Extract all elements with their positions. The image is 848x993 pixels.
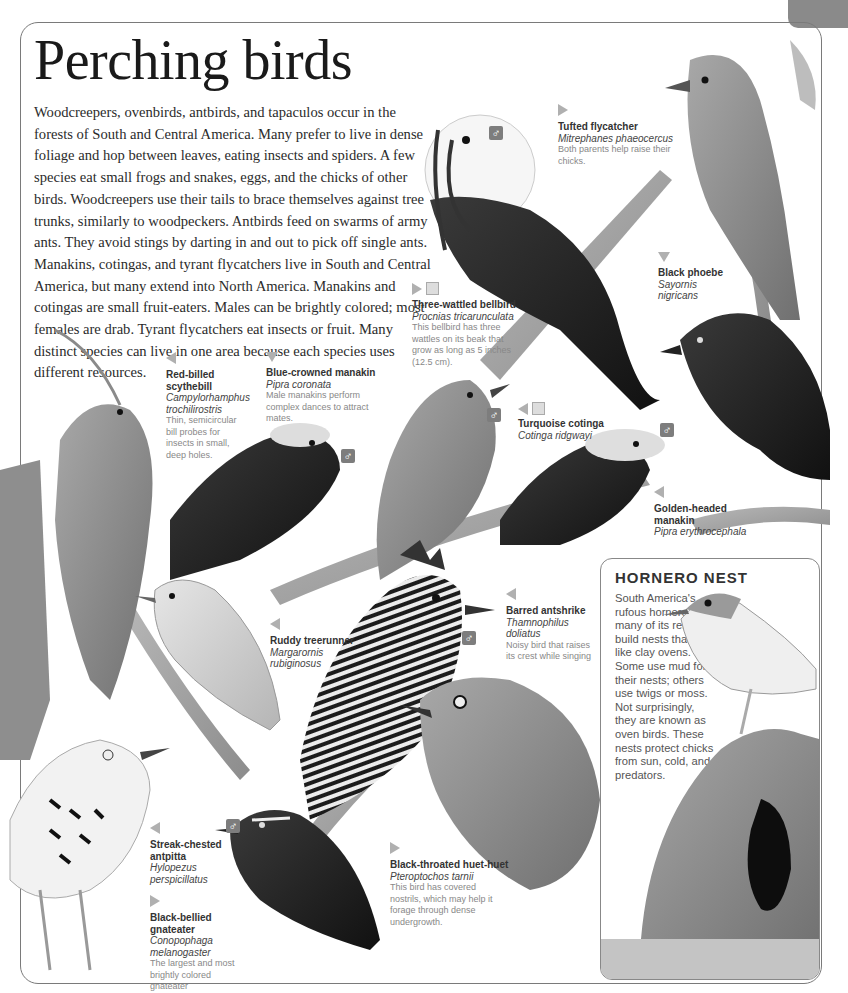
pointer-left-icon [654,486,664,498]
caption-red-billed-scythebill: Red-billed scythebill Campylorhamphus tr… [166,352,246,461]
caption-golden-headed-manakin: Golden-headed manakin Pipra erythrocepha… [654,486,754,538]
male-symbol-icon: ♂ [660,423,674,437]
pointer-left-icon [166,352,176,364]
caption-black-bellied-gnateater: Black-bellied gnateater Conopophaga mela… [150,895,240,993]
hornero-nest-illustration [601,559,819,979]
caption-tufted-flycatcher: Tufted flycatcher Mitrephanes phaeocercu… [558,104,678,167]
pointer-right-icon [150,895,160,907]
caption-turquoise-cotinga: Turquoise cotinga Cotinga ridgwayi [518,402,618,441]
caption-ruddy-treerunner: Ruddy treerunner Margarornis rubiginosus [270,618,360,670]
golden-headed-manakin-bird-icon [500,429,665,545]
pointer-down-icon [266,352,278,362]
caption-black-phoebe: Black phoebe Sayornis nigricans [658,252,728,302]
male-symbol-icon: ♂ [341,449,355,463]
hornero-bird-icon [663,593,816,734]
scythebill-bird-icon [55,330,153,700]
antpitta-bird-icon [10,740,170,970]
caption-three-wattled-bellbird: Three-wattled bellbird Procnias tricarun… [412,282,522,368]
caption-streak-chested-antpitta: Streak-chested antpitta Hylopezus perspi… [150,822,230,885]
hornero-nest-panel: HORNERO NEST South America's rufous horn… [600,558,820,980]
pointer-right-icon [412,283,422,295]
size-comparison-icon [426,282,439,295]
pointer-left-icon [506,588,516,600]
male-symbol-icon: ♂ [487,408,501,422]
pointer-right-icon [558,104,568,116]
size-comparison-icon [532,402,545,415]
male-symbol-icon: ♂ [489,126,503,140]
pointer-left-icon [270,618,280,630]
male-symbol-icon: ♂ [462,631,476,645]
pointer-down-icon [658,252,670,262]
caption-blue-crowned-manakin: Blue-crowned manakin Pipra coronata Male… [266,352,386,425]
black-phoebe-bird-icon [660,313,830,480]
pointer-right-icon [390,842,400,854]
caption-black-throated-huet-huet: Black-throated huet-huet Pteroptochos ta… [390,842,500,928]
caption-barred-antshrike: Barred antshrike Thamnophilus doliatus N… [506,588,598,663]
pointer-left-icon [518,403,528,415]
pointer-left-icon [150,822,160,834]
clay-oven-nest-icon [601,729,819,979]
